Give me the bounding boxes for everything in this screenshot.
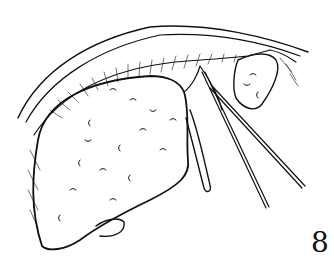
liver-illustration — [0, 0, 334, 275]
abdominal-wall-inner — [26, 34, 300, 122]
liver-right-lobe — [33, 76, 188, 249]
figure-number: 8 — [311, 229, 329, 257]
figure-canvas: 8 — [0, 0, 334, 275]
gallbladder — [186, 110, 210, 192]
liver-left-lobe — [234, 54, 278, 109]
diaphragm-outline — [34, 50, 296, 135]
diaphragm-hatching — [50, 54, 298, 118]
liver-surface-texture — [59, 74, 259, 222]
retractor-instruments — [202, 72, 305, 208]
